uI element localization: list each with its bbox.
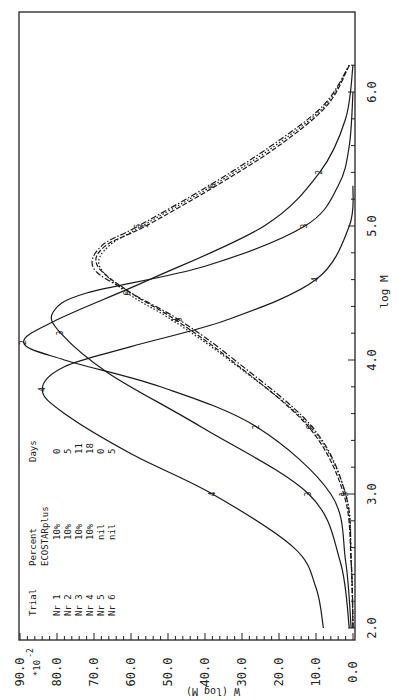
curve-marker: 6 [306,424,315,429]
legend-row-days: 11 [74,443,84,454]
axis-ticks [20,65,355,640]
legend-header-trial: Trial [28,589,38,616]
molecular-weight-distribution-chart: 111222333444555666 0.010.020.030.040.050… [0,0,401,700]
curve-marker: 4 [312,277,321,282]
w-tick-label: 80.0 [50,658,64,687]
legend-row-trial: Nr 3 [74,594,84,616]
legend-row-trial: Nr 5 [96,594,106,616]
legend-row-percent: nil [96,524,106,540]
w-axis-title: W (log M) [186,686,240,697]
plot-frame [19,12,355,640]
w-tick-label: 50.0 [161,658,175,687]
legend-row-trial: Nr 6 [107,594,117,616]
plot-border [19,12,355,640]
legend-row-days: 5 [107,449,117,454]
legend-row-days: 5 [63,449,73,454]
legend-row-percent: 10% [52,523,62,540]
legend-row-percent: 10% [63,523,73,540]
w-tick-label: 30.0 [235,658,249,687]
legend-row-days: 18 [85,443,95,454]
w-tick-label: 60.0 [124,658,138,687]
curve-marker: 2 [252,424,261,429]
curve-marker: 5 [134,223,143,228]
logm-tick-label: 2.0 [365,617,379,639]
logm-axis-title: log M [378,275,391,308]
curve-marker: 6 [123,290,132,295]
legend-row-trial: Nr 1 [52,594,62,616]
legend-header-percent-sub: ECOSTARplus [40,506,50,566]
w-tick-label: 20.0 [272,658,286,687]
logm-tick-label: 6.0 [365,81,379,103]
w-tick-label: 0.0 [346,661,360,683]
curve-nr-3 [51,92,353,628]
legend-row-percent: 10% [85,523,95,540]
curve-nr-6 [99,65,353,628]
legend-header-percent: Percent [28,528,38,566]
legend: TrialPercentECOSTARplusDaysNr 110%0Nr 21… [28,440,117,616]
logm-tick-label: 5.0 [365,215,379,237]
legend-row-trial: Nr 4 [85,594,95,616]
w-multiplier: *10 [32,660,42,676]
w-multiplier-exponent: -2 [26,648,35,658]
curve-marker: 4 [38,387,47,392]
curve-nr-4 [42,186,353,628]
legend-header-days: Days [28,440,38,462]
curves [24,65,354,628]
w-tick-label: 70.0 [87,658,101,687]
curve-marker: 5 [175,317,184,322]
curve-nr-1 [96,65,353,628]
legend-row-trial: Nr 2 [63,594,73,616]
curve-marker: 6 [208,183,217,188]
curve-marker: 3 [300,223,309,228]
curve-marker: 2 [19,340,28,345]
legend-row-days: 0 [96,449,106,454]
legend-row-percent: nil [107,524,117,540]
w-tick-label: 10.0 [309,658,323,687]
w-tick-label: 40.0 [198,658,212,687]
legend-row-days: 0 [52,449,62,454]
w-tick-label: 90.0 [13,658,27,687]
logm-tick-label: 4.0 [365,349,379,371]
logm-tick-label: 3.0 [365,483,379,505]
curve-marker: 3 [304,491,313,496]
curve-nr-2 [24,65,353,628]
curve-marker: 2 [315,170,324,175]
legend-row-percent: 10% [74,523,84,540]
curve-marker: 3 [56,331,65,336]
curve-marker: 4 [208,491,217,496]
